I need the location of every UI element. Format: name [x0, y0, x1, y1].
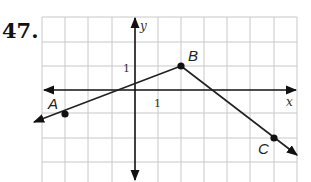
x-tick-label: 1	[154, 97, 161, 110]
x-axis-label: x	[286, 95, 293, 109]
segment-bc-ray	[181, 66, 297, 155]
y-axis-label: y	[139, 19, 147, 33]
point-b-label: B	[188, 47, 198, 64]
point-b	[177, 62, 184, 69]
point-a-label: A	[47, 95, 58, 112]
segment-ab-ray	[34, 66, 181, 122]
point-a	[61, 110, 68, 117]
coordinate-graph: y x 1 1 A B C	[0, 0, 311, 182]
point-c-label: C	[258, 140, 269, 157]
grid	[42, 17, 297, 182]
point-c	[270, 134, 277, 141]
y-tick-label: 1	[123, 62, 130, 75]
